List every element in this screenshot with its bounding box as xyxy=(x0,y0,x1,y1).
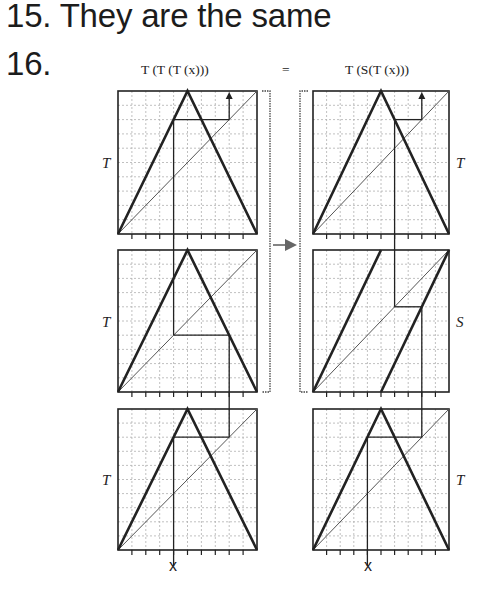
left-bracket xyxy=(262,91,270,392)
right-bracket xyxy=(300,91,308,392)
arrow-right-icon xyxy=(285,239,297,251)
arrow-up-icon xyxy=(226,92,233,99)
cobweb-figure xyxy=(0,0,492,601)
arrow-up-icon xyxy=(418,92,425,99)
